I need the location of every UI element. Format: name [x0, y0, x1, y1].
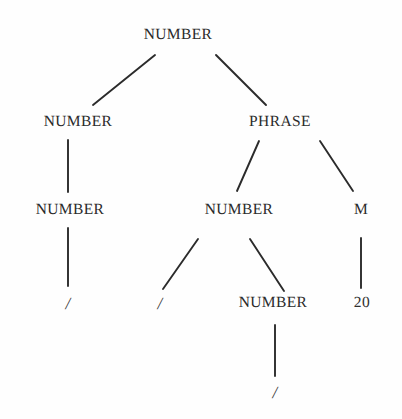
tree-edge-n0-n2 — [216, 55, 266, 105]
tree-node-n4-number: NUMBER — [205, 202, 274, 218]
tree-node-n8-number: NUMBER — [239, 295, 308, 311]
tree-node-n0-number: NUMBER — [144, 27, 213, 43]
tree-edge-n0-n1 — [93, 55, 155, 105]
tree-edge-n2-n4 — [237, 141, 259, 191]
tree-node-n5-m: M — [354, 202, 368, 218]
tree-edge-n2-n5 — [320, 141, 353, 191]
tree-node-n1-number: NUMBER — [44, 114, 113, 130]
tree-node-n2-phrase: PHRASE — [249, 114, 311, 130]
tree-node-n3-number: NUMBER — [36, 202, 105, 218]
tree-node-n7-slash: / — [157, 295, 162, 312]
parse-tree-figure: NUMBERNUMBERPHRASENUMBERNUMBERM//NUMBER2… — [0, 0, 402, 419]
tree-edge-n4-n8 — [250, 239, 284, 291]
tree-node-n6-slash: / — [65, 295, 70, 312]
tree-node-n9-20: 20 — [354, 295, 370, 311]
tree-edge-n4-n7 — [163, 239, 198, 289]
tree-node-n10-slash: / — [272, 384, 277, 401]
